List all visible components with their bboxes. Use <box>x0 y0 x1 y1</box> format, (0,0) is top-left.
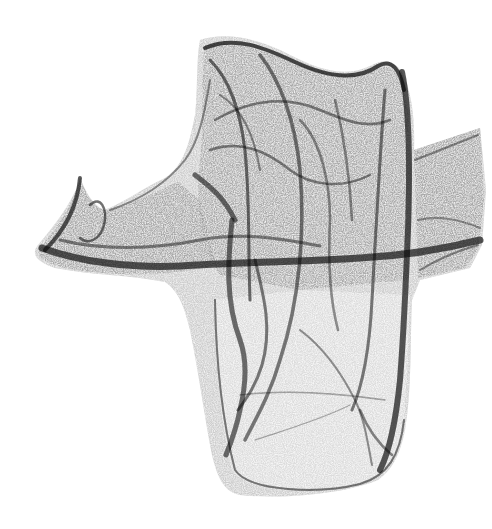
attractor-svg <box>0 0 492 529</box>
silhouette <box>35 36 486 496</box>
attractor-artwork <box>0 0 492 529</box>
